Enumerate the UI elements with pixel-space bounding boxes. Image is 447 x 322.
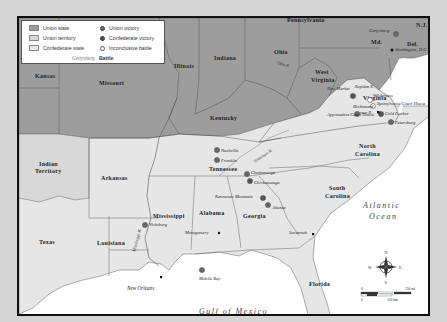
legend-battle-example: Gettysburg Battle [72,55,113,61]
svg-text:Appomattox Court House: Appomattox Court House [326,112,374,117]
label-tennessee: Tennessee [209,166,237,172]
label-gulf: Gulf of Mexico [199,307,268,316]
svg-text:Petersburg: Petersburg [394,120,416,125]
swatch-union-territory [29,35,39,41]
label-missouri: Missouri [99,80,124,86]
compass-s: S [385,280,387,285]
legend-union-state: Union state [29,25,69,31]
svg-text:Savannah: Savannah [289,230,308,235]
svg-text:Chattanooga: Chattanooga [251,170,276,175]
svg-text:Richmond: Richmond [352,104,374,109]
label-atlantic-2: Ocean [369,212,397,221]
svg-text:0: 0 [361,287,363,291]
swatch-confederate-state [29,45,39,51]
label-kansas: Kansas [35,73,56,79]
label-arkansas: Arkansas [101,175,128,181]
svg-text:Kennesaw Mountain: Kennesaw Mountain [214,194,254,199]
svg-text:New Market: New Market [326,86,350,91]
label-west-virginia-1: West [315,69,329,75]
svg-text:Nashville: Nashville [220,148,238,153]
union-victory-marker-icon [100,26,105,31]
svg-text:Wilderness: Wilderness [373,93,393,98]
label-texas: Texas [39,239,55,245]
label-pennsylvania: Pennsylvania [287,18,325,23]
label-nj: N.J. [416,22,428,28]
map-legend: Union state Union territory Confederate … [21,20,165,64]
label-ohio: Ohio [274,49,288,55]
svg-text:Cold Harbor: Cold Harbor [385,111,409,116]
map-frame: Kansas Missouri Illinois Indiana Ohio Pe… [17,16,430,316]
svg-text:Mobile Bay: Mobile Bay [198,276,221,281]
svg-text:150 mi.: 150 mi. [405,287,416,291]
label-rapidan-river: Rapidan R. [354,84,374,89]
compass-n: N [385,250,388,255]
label-georgia: Georgia [243,213,266,219]
label-west-virginia-2: Virginia [311,77,335,83]
label-south-carolina-1: South [329,185,346,191]
svg-text:Atlanta: Atlanta [271,205,286,210]
legend-union-territory: Union territory [29,35,76,41]
legend-confederate-state: Confederate state [29,45,84,51]
label-north-carolina-1: North [359,143,376,149]
label-alabama: Alabama [199,210,224,216]
swatch-union-state [29,25,39,31]
battle-nashville[interactable]: Nashville [214,147,238,153]
label-atlantic-1: Atlantic [362,201,400,210]
label-indian-territory-1: Indian [39,161,58,167]
svg-text:0: 0 [361,298,363,302]
battle-vicksburg[interactable]: Vicksburg [142,222,167,228]
label-mississippi: Mississippi [153,213,185,219]
svg-text:Chickamauga: Chickamauga [254,180,280,185]
svg-text:Gettysburg: Gettysburg [369,28,390,33]
label-indiana: Indiana [214,55,236,61]
svg-text:Spotsylvania Court House: Spotsylvania Court House [377,101,425,106]
legend-confederate-victory: Confederate victory [100,35,154,41]
battle-franklin[interactable]: Franklin [214,157,237,163]
battle-appomattox[interactable]: Appomattox Court House [326,111,374,117]
svg-text:Vicksburg: Vicksburg [149,222,168,227]
label-louisiana: Louisiana [97,240,125,246]
label-kentucky: Kentucky [210,115,237,121]
svg-text:Montgomery: Montgomery [184,230,209,235]
label-south-carolina-2: Carolina [325,193,350,199]
svg-text:New Orleans: New Orleans [126,285,154,291]
label-north-carolina-2: Carolina [355,151,380,157]
compass-w: W [368,265,372,270]
label-indian-territory-2: Territory [35,168,61,174]
inconclusive-battle-marker-icon [100,46,105,51]
legend-union-victory: Union victory [100,25,139,31]
label-florida: Florida [309,281,330,287]
label-illinois: Illinois [174,63,194,69]
label-md: Md. [371,39,383,45]
battle-petersburg[interactable]: Petersburg [388,119,416,125]
confederate-victory-marker-icon [100,36,105,41]
svg-text:Franklin: Franklin [220,158,238,163]
svg-text:150 km: 150 km [387,298,398,302]
legend-inconclusive-battle: Inconclusive battle [100,45,152,51]
